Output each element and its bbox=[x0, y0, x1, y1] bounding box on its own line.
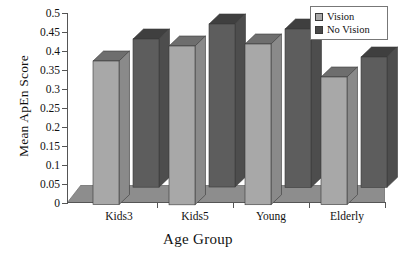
bar-svg bbox=[133, 29, 173, 187]
bar-elderly-no-vision bbox=[361, 47, 387, 185]
bar-front-face bbox=[361, 57, 387, 187]
y-axis-title: Mean ApEn Score bbox=[16, 36, 32, 176]
legend-swatch-no-vision bbox=[315, 26, 323, 34]
y-axis-tick-label: 0.15 bbox=[40, 140, 60, 152]
bar-side-face bbox=[387, 47, 397, 187]
bar-young-vision bbox=[245, 34, 271, 203]
x-axis-tick bbox=[309, 202, 310, 208]
x-axis-title: Age Group bbox=[0, 231, 396, 248]
bar-svg bbox=[93, 51, 133, 205]
bar-side-face bbox=[347, 67, 357, 205]
bar-svg bbox=[209, 14, 249, 187]
x-axis-tick-label: Kids5 bbox=[181, 210, 208, 222]
legend: Vision No Vision bbox=[310, 6, 388, 40]
bar-front-face bbox=[209, 24, 235, 187]
legend-label-vision: Vision bbox=[327, 11, 354, 22]
bar-svg bbox=[321, 67, 361, 205]
legend-item-vision: Vision bbox=[315, 10, 383, 23]
x-axis-tick bbox=[233, 202, 234, 208]
bar-front-face bbox=[93, 61, 119, 205]
x-axis-tick bbox=[157, 202, 158, 208]
bar-side-face bbox=[159, 29, 169, 187]
legend-label-no-vision: No Vision bbox=[327, 24, 370, 35]
x-axis-tick-label: Elderly bbox=[330, 210, 364, 222]
y-axis-tick-label: 0 bbox=[54, 197, 60, 209]
bar-kids3-vision bbox=[93, 51, 119, 203]
bar-young-no-vision bbox=[285, 19, 311, 185]
bar-side-face bbox=[235, 14, 245, 187]
y-axis-tick bbox=[62, 203, 68, 204]
y-axis-tick-label: 0.45 bbox=[40, 26, 60, 38]
bar-side-face bbox=[195, 36, 205, 205]
y-axis-tick-label: 0.4 bbox=[46, 45, 60, 57]
bar-svg bbox=[285, 19, 325, 187]
bar-svg bbox=[169, 36, 209, 205]
bar-side-face bbox=[311, 19, 321, 187]
bar-front-face bbox=[133, 39, 159, 187]
bar-side-face bbox=[119, 51, 129, 205]
legend-swatch-vision bbox=[315, 13, 323, 21]
x-axis-tick bbox=[385, 202, 386, 208]
bar-front-face bbox=[321, 77, 347, 205]
y-axis-tick-label: 0.1 bbox=[46, 159, 60, 171]
bar-svg bbox=[361, 47, 401, 187]
bar-front-face bbox=[245, 44, 271, 205]
x-axis-tick-label: Kids3 bbox=[105, 210, 132, 222]
bar-kids5-vision bbox=[169, 36, 195, 203]
bar-kids5-no-vision bbox=[209, 14, 235, 185]
plot-area bbox=[67, 13, 385, 203]
bar-side-face bbox=[271, 34, 281, 205]
bar-elderly-vision bbox=[321, 67, 347, 203]
legend-item-no-vision: No Vision bbox=[315, 23, 383, 36]
y-axis-tick-label: 0.3 bbox=[46, 83, 60, 95]
x-axis-tick-label: Young bbox=[256, 210, 286, 222]
y-axis-tick-label: 0.35 bbox=[40, 64, 60, 76]
y-axis-tick-label: 0.5 bbox=[46, 7, 60, 19]
bar-svg bbox=[245, 34, 285, 205]
y-axis-tick-label: 0.25 bbox=[40, 102, 60, 114]
bar-front-face bbox=[285, 29, 311, 187]
y-axis-tick-label: 0.05 bbox=[40, 178, 60, 190]
bar-kids3-no-vision bbox=[133, 29, 159, 185]
bar-front-face bbox=[169, 46, 195, 205]
y-axis-tick-label: 0.2 bbox=[46, 121, 60, 133]
